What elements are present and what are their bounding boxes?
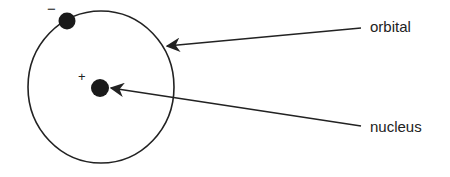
nucleus-pointer-arrow <box>111 88 361 126</box>
nucleus-label: nucleus <box>370 119 422 134</box>
nucleus-dot <box>91 79 109 97</box>
orbital-label: orbital <box>370 19 411 34</box>
electron-charge-label: − <box>47 1 56 16</box>
electron-dot <box>59 13 76 30</box>
nucleus-charge-label: + <box>78 70 86 83</box>
orbital-pointer-arrow <box>167 28 361 46</box>
